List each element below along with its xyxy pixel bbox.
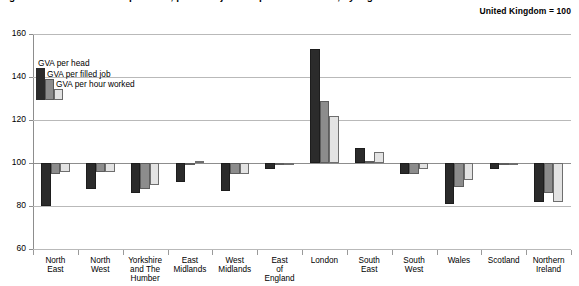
x-axis-labels: NorthEastNorthWestYorkshireand TheHumber… [33, 256, 571, 286]
bar-group [445, 34, 474, 249]
bar [365, 161, 375, 163]
bar-group [131, 34, 160, 249]
bar-group [355, 34, 384, 249]
bar [150, 163, 160, 185]
bar [329, 116, 339, 163]
legend-swatch-per-filled-job [45, 79, 54, 100]
figure-title: Figure: Gross value added per head, per … [0, 0, 579, 3]
x-tick-mark [78, 250, 79, 255]
x-axis-label-london: London [302, 256, 347, 265]
bar-group [490, 34, 519, 249]
y-tick-label-120: 120 [2, 115, 26, 124]
x-tick-mark [437, 250, 438, 255]
legend-swatch-per-hour-worked [54, 89, 63, 100]
legend-label-per-head: GVA per head [38, 58, 90, 69]
x-axis-label-wales: Wales [437, 256, 482, 265]
x-tick-mark [347, 250, 348, 255]
x-axis-label-north-west: NorthWest [78, 256, 123, 274]
bar [400, 163, 410, 174]
bar [176, 163, 186, 182]
bar [265, 163, 275, 169]
bar [355, 148, 365, 163]
bar [230, 163, 240, 174]
bar [310, 49, 320, 163]
x-tick-mark [33, 250, 34, 255]
x-tick-mark [123, 250, 124, 255]
x-tick-mark [392, 250, 393, 255]
x-tick-mark [257, 250, 258, 255]
x-tick-mark [481, 250, 482, 255]
bar [374, 152, 384, 163]
x-axis-label-scotland: Scotland [481, 256, 526, 265]
index-note: United Kingdom = 100 [480, 6, 572, 16]
bar [195, 161, 205, 163]
y-tick-label-160: 160 [2, 29, 26, 38]
x-axis-label-yorkshire-and-the-humber: Yorkshireand TheHumber [123, 256, 168, 284]
bar-group [400, 34, 429, 249]
x-tick-mark [526, 250, 527, 255]
legend-label-per-filled-job: GVA per filled job [47, 69, 111, 80]
y-tick-label-60: 60 [2, 244, 26, 253]
bar [240, 163, 250, 174]
x-axis-label-south-east: SouthEast [347, 256, 392, 274]
bar-group [221, 34, 250, 249]
bar-group [534, 34, 563, 249]
bar [544, 163, 554, 193]
bar-group [176, 34, 205, 249]
x-tick-mark [302, 250, 303, 255]
legend-label-per-hour-worked: GVA per hour worked [56, 79, 135, 90]
bar [490, 163, 500, 169]
x-axis-label-west-midlands: WestMidlands [212, 256, 257, 274]
legend-swatch-per-head [36, 68, 45, 100]
bar-group [86, 34, 115, 249]
bar [185, 163, 195, 165]
bar [284, 163, 294, 165]
y-tick-label-140: 140 [2, 72, 26, 81]
bar-group [310, 34, 339, 249]
x-tick-mark [571, 250, 572, 255]
bar [221, 163, 231, 191]
y-tick-label-80: 80 [2, 201, 26, 210]
x-axis-label-south-west: SouthWest [392, 256, 437, 274]
bar [509, 163, 519, 165]
bar [419, 163, 429, 169]
x-tick-mark [168, 250, 169, 255]
bar [464, 163, 474, 180]
bar [445, 163, 455, 204]
bar [140, 163, 150, 189]
bar [41, 163, 51, 206]
x-axis-label-northern-ireland: NorthernIreland [526, 256, 571, 274]
bar [60, 163, 70, 172]
bar [553, 163, 563, 202]
bar [96, 163, 106, 172]
bar [275, 163, 285, 165]
bar [534, 163, 544, 202]
y-tick-label-100: 100 [2, 158, 26, 167]
bar [105, 163, 115, 172]
x-axis-label-east-midlands: EastMidlands [168, 256, 213, 274]
plot-area [33, 34, 571, 249]
x-axis-label-north-east: NorthEast [33, 256, 78, 274]
bar [51, 163, 61, 174]
bar [320, 101, 330, 163]
bar [499, 163, 509, 165]
x-tick-mark [212, 250, 213, 255]
bar [131, 163, 141, 193]
bar [409, 163, 419, 174]
chart-container: Figure: Gross value added per head, per … [0, 0, 579, 286]
bar-group [265, 34, 294, 249]
x-axis-label-east-of-england: EastofEngland [257, 256, 302, 284]
bar [454, 163, 464, 187]
bar [86, 163, 96, 189]
